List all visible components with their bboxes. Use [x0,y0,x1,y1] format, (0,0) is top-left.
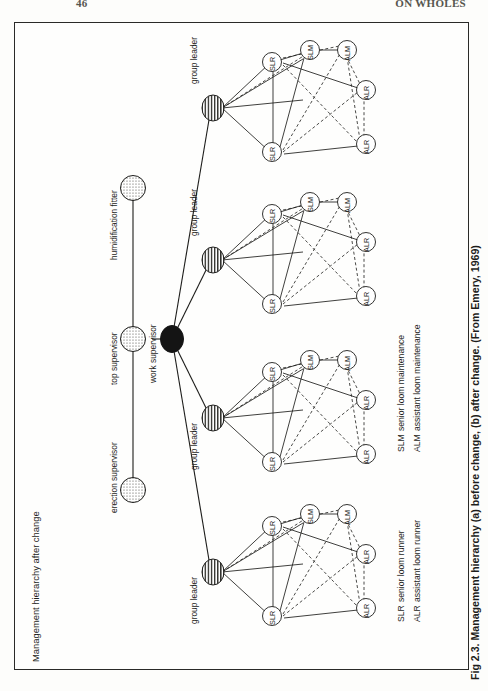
figure-caption: Fig 2.3. Management hierarchy (a) before… [469,245,481,680]
figure-frame [14,22,469,670]
book-page: 46 ON WHOLES Management hierarchy after … [0,0,488,691]
page-folio: 46 [76,0,88,9]
running-head: ON WHOLES [395,0,466,9]
